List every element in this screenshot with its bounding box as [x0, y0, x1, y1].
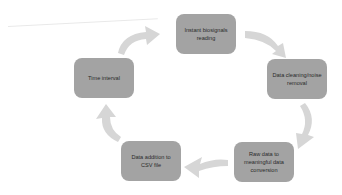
node-time-interval: Time interval [74, 58, 134, 98]
node-raw-data-conversion: Raw data to meaningful data conversion [234, 142, 294, 182]
curved-arrow-icon [245, 31, 286, 58]
node-data-addition-csv: Data addition to CSV file [121, 141, 181, 181]
curved-arrow-icon [96, 104, 121, 142]
cycle-diagram: Instant biosignals reading Data cleaning… [0, 0, 342, 195]
node-instant-biosignals-reading: Instant biosignals reading [176, 14, 236, 54]
curved-arrow-icon [118, 26, 160, 55]
curved-arrow-icon [184, 157, 228, 178]
node-label: Raw data to meaningful data conversion [238, 150, 290, 174]
curved-arrow-icon [296, 103, 314, 149]
node-data-cleaning: Data cleaning/noise removal [267, 59, 327, 99]
node-label: Data cleaning/noise removal [271, 71, 323, 87]
node-label: Instant biosignals reading [180, 26, 232, 42]
node-label: Data addition to CSV file [125, 153, 177, 169]
node-label: Time interval [88, 74, 120, 82]
